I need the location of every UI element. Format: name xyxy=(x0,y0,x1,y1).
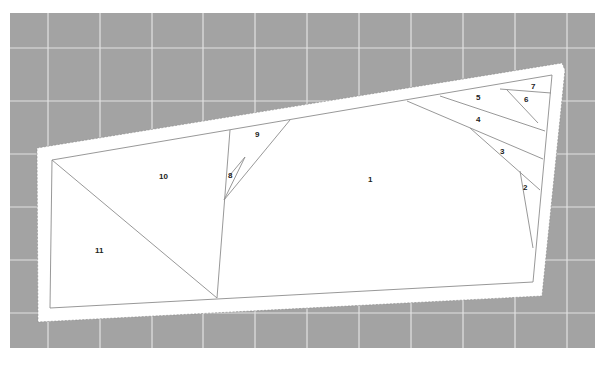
section-label-4: 4 xyxy=(476,115,481,124)
section-label-7: 7 xyxy=(531,82,536,91)
pattern-scene: 1 2 3 4 5 6 7 8 9 10 11 xyxy=(0,0,603,368)
section-label-9: 9 xyxy=(255,130,260,139)
section-label-10: 10 xyxy=(159,172,168,181)
section-label-11: 11 xyxy=(95,246,104,255)
section-label-6: 6 xyxy=(524,95,529,104)
section-label-1: 1 xyxy=(368,175,373,184)
section-label-3: 3 xyxy=(500,147,505,156)
section-label-2: 2 xyxy=(523,183,528,192)
section-label-8: 8 xyxy=(228,171,233,180)
section-label-5: 5 xyxy=(476,93,481,102)
